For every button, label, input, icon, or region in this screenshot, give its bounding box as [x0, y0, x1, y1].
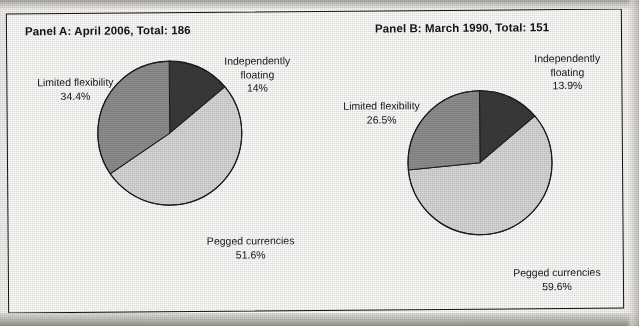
label-text: Limited flexibility	[326, 99, 438, 113]
panel-b: Panel B: March 1990, Total: 151 Limited …	[365, 10, 623, 310]
label-value: 51.6%	[189, 248, 313, 262]
label-independently-floating-b: Independently floating 13.9%	[513, 52, 621, 93]
label-value: 26.5%	[326, 113, 438, 127]
label-text: Pegged currencies	[189, 234, 313, 248]
label-value: 14%	[203, 81, 311, 95]
label-value: 34.4%	[19, 89, 131, 103]
figure-frame: Panel A: April 2006, Total: 186 Limited …	[6, 9, 624, 314]
label-text-line1: Independently	[513, 52, 621, 66]
scan-edge-top	[0, 0, 639, 9]
scan-edge-bottom	[0, 313, 639, 326]
label-independently-floating-a: Independently floating 14%	[203, 54, 311, 95]
scan-edge-right	[627, 0, 639, 326]
label-limited-flexibility-b: Limited flexibility 26.5%	[326, 99, 438, 127]
panel-a: Panel A: April 2006, Total: 186 Limited …	[7, 12, 367, 313]
label-value: 59.6%	[495, 279, 619, 293]
label-text: Limited flexibility	[19, 75, 131, 89]
label-text-line1: Independently	[203, 54, 311, 68]
label-value: 13.9%	[513, 79, 621, 93]
label-text-line2: floating	[203, 68, 311, 82]
label-text-line2: floating	[513, 65, 621, 79]
panel-b-title: Panel B: March 1990, Total: 151	[375, 21, 549, 34]
label-pegged-currencies-a: Pegged currencies 51.6%	[189, 234, 313, 262]
label-pegged-currencies-b: Pegged currencies 59.6%	[495, 266, 619, 294]
panel-a-title: Panel A: April 2006, Total: 186	[25, 24, 191, 37]
label-text: Pegged currencies	[495, 266, 619, 280]
label-limited-flexibility-a: Limited flexibility 34.4%	[19, 75, 131, 103]
